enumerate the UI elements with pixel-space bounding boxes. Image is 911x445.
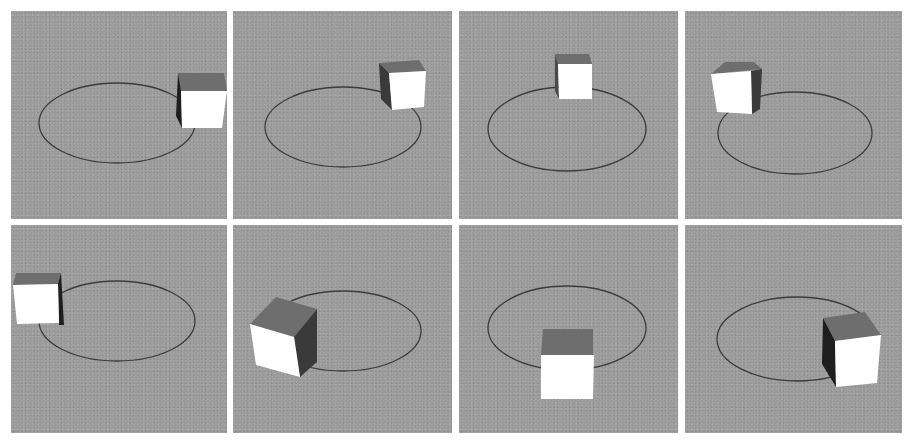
frame-panel-2 [233, 11, 452, 219]
orbit-ellipse [488, 87, 646, 171]
scene-5 [11, 225, 227, 433]
cube [822, 312, 881, 387]
frame-panel-1 [11, 11, 227, 219]
frame-panel-6 [233, 225, 452, 433]
scene-7 [459, 225, 678, 433]
frame-panel-8 [685, 225, 902, 433]
cube [13, 273, 64, 325]
orbit-ellipse [39, 83, 195, 163]
cube [176, 73, 227, 128]
scene-8 [685, 225, 902, 433]
scene-6 [233, 225, 452, 433]
frame-panel-5 [11, 225, 227, 433]
scene-1 [11, 11, 227, 219]
frame-panel-7 [459, 225, 678, 433]
scene-2 [233, 11, 452, 219]
cube [541, 329, 594, 399]
cube [555, 54, 592, 99]
scene-3 [459, 11, 678, 219]
cube [711, 62, 762, 114]
cube [379, 60, 426, 110]
frame-panel-4 [685, 11, 902, 219]
cube [250, 297, 317, 377]
frame-panel-3 [459, 11, 678, 219]
scene-4 [685, 11, 902, 219]
